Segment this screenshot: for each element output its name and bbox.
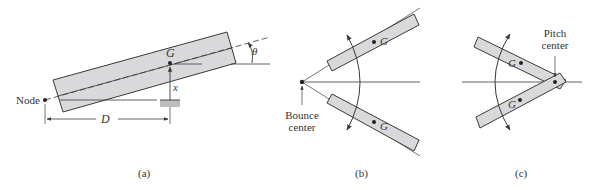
caption-a: (a) bbox=[138, 167, 151, 180]
node-dot bbox=[43, 98, 47, 102]
node-label: Node bbox=[16, 94, 40, 106]
panel-c: G G Pitch center (c) bbox=[462, 27, 582, 180]
caption-b: (b) bbox=[355, 167, 368, 180]
cg-label-upper: G bbox=[380, 35, 388, 47]
cg-label-lower: G bbox=[380, 120, 388, 132]
bounce-center-label-line2: center bbox=[289, 121, 316, 133]
displacement-label: x bbox=[172, 81, 178, 93]
bounce-center-dot bbox=[300, 80, 304, 84]
caption-c: (c) bbox=[515, 167, 528, 180]
panel-a: Node G x D θ (a) bbox=[16, 32, 270, 180]
angle-label: θ bbox=[252, 45, 258, 57]
ground-reference bbox=[160, 100, 180, 107]
bounce-center-label-line1: Bounce bbox=[285, 109, 319, 121]
distance-label: D bbox=[100, 112, 110, 126]
cg-label-lower: G bbox=[508, 98, 516, 110]
cg-dot bbox=[168, 61, 172, 65]
figure-canvas: Node G x D θ (a) G G Bounce center (b) bbox=[0, 0, 598, 190]
cg-label: G bbox=[166, 46, 175, 60]
panel-b: G G Bounce center (b) bbox=[285, 8, 420, 180]
cg-label-upper: G bbox=[508, 57, 516, 69]
pitch-center-label-line2: center bbox=[542, 39, 569, 51]
pitch-center-dot bbox=[553, 80, 557, 84]
pitch-center-label-line1: Pitch bbox=[544, 27, 567, 39]
